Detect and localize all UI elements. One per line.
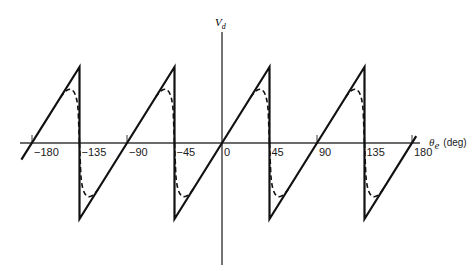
x-tick-label: −45 [177,146,196,158]
dashed-curve-upper [156,89,175,143]
x-tick-label: −180 [34,146,59,158]
y-axis-subscript: d [222,22,227,31]
x-tick-label: 0 [224,146,230,158]
dashed-curve-upper [346,89,365,143]
dashed-curve-upper [251,89,270,143]
x-tick-label: 90 [319,146,331,158]
phase-detector-characteristic-chart: −180−135−90−4504590135180 Vd θe(deg) [0,0,476,271]
x-axis-label: θe(deg) [429,136,467,151]
x-axis-unit: (deg) [443,137,466,148]
x-tick-label: −135 [82,146,107,158]
x-tick-label: −90 [129,146,148,158]
dashed-curve-upper [61,89,80,143]
y-axis-label: Vd [215,16,227,31]
x-tick-label: 135 [367,146,385,158]
x-tick-labels: −180−135−90−4504590135180 [34,146,432,158]
x-axis-subscript: e [434,139,439,151]
x-tick-label: 45 [272,146,284,158]
